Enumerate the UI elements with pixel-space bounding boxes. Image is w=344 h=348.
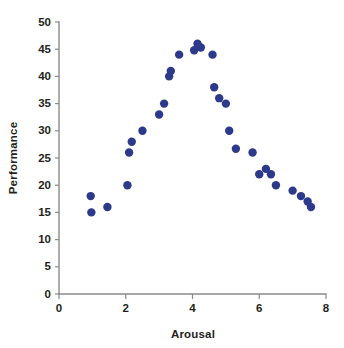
data-point [215,94,223,102]
x-tick-label: 8 [323,302,330,314]
y-tick-label: 5 [45,260,52,272]
data-point [222,99,230,107]
x-tick-label: 0 [56,302,62,314]
data-point [87,208,95,216]
scatter-chart: 05101520253035404550 02468 Arousal Perfo… [0,0,344,348]
data-point [255,170,263,178]
y-tick-label: 30 [38,124,51,136]
y-axis-ticks: 05101520253035404550 [38,16,59,300]
x-axis-title: Arousal [171,328,215,340]
y-tick-label: 10 [38,233,51,245]
data-point [167,67,175,75]
data-point [87,192,95,200]
data-point [123,181,131,189]
y-tick-label: 15 [38,206,51,218]
plot-area: 05101520253035404550 02468 Arousal Perfo… [0,0,344,348]
data-point [267,170,275,178]
data-point [210,83,218,91]
y-tick-label: 35 [38,97,51,109]
data-point [208,50,216,58]
data-point [103,203,111,211]
data-point [297,192,305,200]
data-point [160,99,168,107]
x-tick-label: 4 [189,302,196,314]
data-points [87,40,316,217]
x-tick-label: 2 [123,302,129,314]
y-tick-label: 25 [38,152,51,164]
data-point [232,145,240,153]
y-tick-label: 0 [45,288,51,300]
data-point [175,50,183,58]
data-point [197,43,205,51]
y-tick-label: 45 [38,43,51,55]
x-tick-label: 6 [256,302,262,314]
data-point [225,127,233,135]
data-point [128,137,136,145]
data-point [272,181,280,189]
y-tick-label: 20 [38,179,51,191]
data-point [288,186,296,194]
y-axis-title: Performance [7,122,19,195]
data-point [248,148,256,156]
x-axis-ticks: 02468 [56,294,330,314]
data-point [307,203,315,211]
data-point [125,148,133,156]
data-point [155,110,163,118]
y-tick-label: 40 [38,70,51,82]
data-point [138,127,146,135]
y-tick-label: 50 [38,16,51,28]
